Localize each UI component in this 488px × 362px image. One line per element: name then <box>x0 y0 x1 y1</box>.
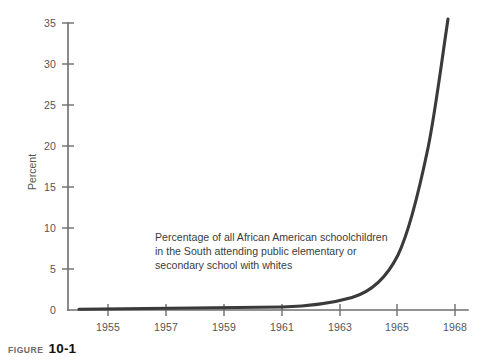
y-tick-label-10: 10 <box>32 222 56 234</box>
x-tick-label-1957: 1957 <box>154 321 178 333</box>
chart-axes <box>62 23 468 316</box>
chart-annotation-line-2: in the South attending public elementary… <box>155 244 405 258</box>
x-tick-label-1963: 1963 <box>328 321 352 333</box>
chart-plot-area <box>0 0 488 362</box>
y-tick-label-25: 25 <box>32 99 56 111</box>
y-tick-label-0: 0 <box>32 304 56 316</box>
figure-caption-number: 10-1 <box>48 341 76 356</box>
y-tick-label-30: 30 <box>32 58 56 70</box>
figure-caption: FIGURE 10-1 <box>8 341 76 356</box>
x-tick-label-1965: 1965 <box>385 321 409 333</box>
figure-caption-word: FIGURE <box>8 345 43 355</box>
y-axis-title: Percent <box>26 154 38 190</box>
y-tick-label-20: 20 <box>32 140 56 152</box>
figure-container: 35 30 25 20 15 10 5 0 1955 1957 1959 196… <box>0 0 488 362</box>
chart-annotation-line-1: Percentage of all African American schoo… <box>155 230 405 244</box>
x-tick-label-1959: 1959 <box>212 321 236 333</box>
x-tick-label-1955: 1955 <box>96 321 120 333</box>
chart-annotation: Percentage of all African American schoo… <box>155 230 405 272</box>
y-tick-label-5: 5 <box>32 263 56 275</box>
y-tick-label-35: 35 <box>32 17 56 29</box>
x-tick-label-1961: 1961 <box>270 321 294 333</box>
x-tick-label-1968: 1968 <box>443 321 467 333</box>
chart-annotation-line-3: secondary school with whites <box>155 258 405 272</box>
